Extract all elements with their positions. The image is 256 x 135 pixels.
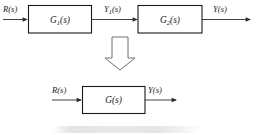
top-output-label: Y(s) xyxy=(213,4,227,14)
bottom-diagram-group: G(s) R(s) Y(s) xyxy=(51,85,177,114)
top-diagram-group: G1(s) G2(s) R(s) Y1(s) Y(s) xyxy=(2,4,251,34)
top-input-arrowhead xyxy=(23,17,28,22)
bottom-input-label: R(s) xyxy=(51,85,66,95)
top-intermediate-label: Y1(s) xyxy=(104,4,121,15)
block-g2-label: G2(s) xyxy=(160,15,180,26)
block-diagram-figure: G1(s) G2(s) R(s) Y1(s) Y(s) G(s) xyxy=(0,0,256,135)
top-output-arrowhead xyxy=(246,17,251,22)
top-intermediate-arrowhead xyxy=(133,17,138,22)
top-input-label: R(s) xyxy=(2,4,17,14)
hollow-down-arrow-icon xyxy=(105,37,135,70)
bottom-output-arrowhead xyxy=(172,98,177,103)
bottom-output-label: Y(s) xyxy=(148,85,162,95)
diagram-canvas: G1(s) G2(s) R(s) Y1(s) Y(s) G(s) xyxy=(0,0,256,135)
block-g-label: G(s) xyxy=(105,95,122,106)
bottom-input-arrowhead xyxy=(77,98,82,103)
scan-artifact xyxy=(52,126,202,133)
block-g1-label: G1(s) xyxy=(50,15,70,26)
